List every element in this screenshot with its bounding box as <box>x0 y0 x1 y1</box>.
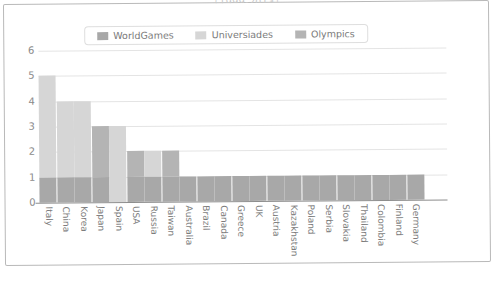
x-tick-label: Austria <box>271 205 280 237</box>
legend-item-worldgames: WorldGames <box>97 30 174 42</box>
x-label-cell: Thailand <box>355 202 372 264</box>
bar-column[interactable] <box>318 48 336 200</box>
bar-segment[interactable] <box>144 176 161 201</box>
x-label-cell: Brazil <box>197 203 214 265</box>
bar-segment[interactable] <box>179 176 196 201</box>
y-tick-label: 6 <box>14 46 34 56</box>
chart-figure-frame: （1999-2013） WorldGames Universiades Olym… <box>3 0 491 266</box>
bar-column[interactable] <box>336 48 354 200</box>
y-tick-label: 2 <box>15 147 35 157</box>
x-tick-label: Brazil <box>201 205 210 230</box>
x-tick-label: Slovakia <box>341 204 350 242</box>
chart-title: （1999-2013） <box>4 0 490 5</box>
legend-label-worldgames: WorldGames <box>113 30 174 41</box>
bar-segment[interactable] <box>109 126 127 202</box>
bar-segment[interactable] <box>74 177 91 202</box>
x-tick-label: USA <box>131 206 140 225</box>
legend-label-olympics: Olympics <box>311 28 355 39</box>
y-tick-label: 5 <box>15 71 35 81</box>
bar-column[interactable] <box>108 50 126 202</box>
bar-segment[interactable] <box>92 177 109 202</box>
x-tick-label: Greece <box>236 205 245 237</box>
bar-column[interactable] <box>73 50 91 202</box>
bar-column[interactable] <box>406 48 424 200</box>
legend-item-olympics: Olympics <box>295 28 355 39</box>
bar-segment[interactable] <box>39 177 56 202</box>
bar-segment[interactable] <box>372 175 389 200</box>
bar-column[interactable] <box>213 49 231 201</box>
x-tick-label: Canada <box>219 205 228 239</box>
legend-swatch-worldgames <box>97 32 108 40</box>
bar-segment[interactable] <box>249 176 266 201</box>
bar-segment[interactable] <box>127 176 144 201</box>
x-label-cell: Austria <box>267 203 284 265</box>
bar-column[interactable] <box>371 48 389 200</box>
bar-column[interactable] <box>353 48 371 200</box>
x-tick-label: Russia <box>149 206 158 235</box>
x-label-cell: Canada <box>215 203 232 265</box>
x-tick-label: Thailand <box>359 204 368 243</box>
bar-segment[interactable] <box>354 175 371 200</box>
bar-column[interactable] <box>126 50 144 202</box>
x-tick-label: Spain <box>114 206 123 231</box>
bar-column[interactable] <box>178 49 196 201</box>
bar-segment[interactable] <box>39 76 57 177</box>
bar-segment[interactable] <box>74 101 92 177</box>
x-label-cell: Serbia <box>320 202 337 264</box>
bar-segment[interactable] <box>319 175 336 200</box>
bar-segment[interactable] <box>214 176 231 201</box>
bar-segment[interactable] <box>162 176 179 201</box>
y-tick-label: 0 <box>16 198 36 208</box>
bar-segment[interactable] <box>197 176 214 201</box>
bar-segment[interactable] <box>337 175 354 200</box>
plot-area <box>38 47 447 202</box>
bar-segment[interactable] <box>389 174 406 199</box>
bar-column[interactable] <box>231 49 249 201</box>
bar-column[interactable] <box>196 49 214 201</box>
bar-segment[interactable] <box>127 151 144 176</box>
bar-column[interactable] <box>248 49 266 201</box>
x-tick-label: Colombia <box>376 204 385 246</box>
legend-swatch-olympics <box>295 30 306 38</box>
bar-segment[interactable] <box>302 175 319 200</box>
bar-segment[interactable] <box>57 177 74 202</box>
legend-swatch-universiades <box>196 31 207 39</box>
x-label-cell: Japan <box>92 204 109 266</box>
x-tick-label: China <box>61 206 70 232</box>
bar-segment[interactable] <box>232 176 249 201</box>
x-tick-label: Taiwan <box>166 206 175 237</box>
x-tick-label: Germany <box>411 204 420 245</box>
bar-segment[interactable] <box>407 174 424 199</box>
x-label-cell: Poland <box>302 202 319 264</box>
x-label-cell: China <box>57 204 74 266</box>
x-axis-labels: ItalyChinaKoreaJapanSpainUSARussiaTaiwan… <box>40 201 448 266</box>
bar-segment[interactable] <box>162 151 179 176</box>
x-tick-label: Australia <box>184 205 193 245</box>
bar-column[interactable] <box>283 49 301 201</box>
x-tick-label: Finland <box>394 204 403 236</box>
bar-segment[interactable] <box>91 126 108 177</box>
bar-segment[interactable] <box>267 175 284 200</box>
x-tick-label: Korea <box>79 206 88 232</box>
x-tick-label: Poland <box>306 204 315 234</box>
bar-segment[interactable] <box>284 175 301 200</box>
bar-column[interactable] <box>38 51 56 203</box>
bar-column[interactable] <box>161 50 179 202</box>
legend-label-universiades: Universiades <box>212 29 273 40</box>
bar-series-group <box>38 47 447 202</box>
x-label-cell: Spain <box>110 204 127 266</box>
bar-segment[interactable] <box>144 151 161 176</box>
x-label-cell: Greece <box>232 203 249 265</box>
bar-column[interactable] <box>91 50 109 202</box>
bar-column[interactable] <box>266 49 284 201</box>
bar-column[interactable] <box>388 48 406 200</box>
bar-segment[interactable] <box>56 101 74 177</box>
x-label-cell: Slovakia <box>337 202 354 264</box>
bar-column[interactable] <box>301 48 319 200</box>
legend-item-universiades: Universiades <box>196 29 273 41</box>
bar-column[interactable] <box>143 50 161 202</box>
x-tick-label: UK <box>254 205 263 218</box>
x-label-cell: UK <box>250 203 267 265</box>
x-label-cell: Italy <box>40 204 57 266</box>
bar-column[interactable] <box>56 50 74 202</box>
